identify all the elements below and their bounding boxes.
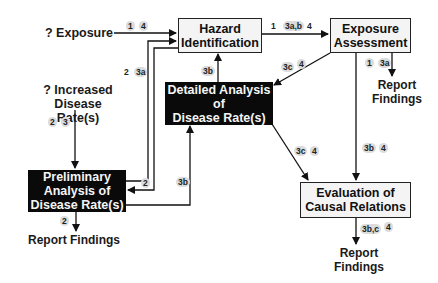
step-tag: 3 — [61, 117, 70, 127]
preliminary-analysis-box: Preliminary Analysis of Disease Rate(s) — [28, 170, 126, 212]
step-tag: 3b — [176, 177, 190, 187]
evaluation-report-findings-label: Report Findings — [324, 246, 394, 274]
exposure-assessment-box: Exposure Assessment — [330, 18, 411, 53]
increased-disease-input-label: ? Increased Disease Rate(s) — [18, 83, 138, 125]
hazard-identification-box: Hazard Identification — [178, 18, 262, 53]
step-tag: 2 — [60, 216, 69, 226]
step-tag: 2 — [141, 178, 150, 188]
exposure-input-label: ? Exposure — [45, 26, 115, 40]
step-tag: 4 — [379, 143, 388, 153]
step-tag: 4 — [139, 21, 148, 31]
step-tag: 2 — [48, 117, 57, 127]
step-tag: 4 — [305, 21, 314, 31]
exposure-report-findings-label: Report Findings — [362, 78, 432, 106]
detailed-analysis-box: Detailed Analysis of Disease Rate(s) — [165, 82, 273, 125]
step-tag: 1 — [365, 58, 374, 68]
preliminary-report-findings-label: Report Findings — [28, 233, 128, 247]
step-tag: 3b,c — [360, 224, 381, 234]
step-tag: 2 — [122, 67, 131, 77]
evaluation-causal-relations-box: Evaluation of Causal Relations — [300, 182, 411, 218]
step-tag: 4 — [297, 59, 306, 69]
step-tag: 4 — [384, 222, 393, 232]
step-tag: 3b — [362, 143, 376, 153]
step-tag: 3c — [281, 62, 294, 72]
step-tag: 3b — [201, 66, 215, 76]
step-tag: 3a — [134, 67, 147, 77]
step-tag: 3a,b — [283, 21, 304, 31]
step-tag: 4 — [310, 146, 319, 156]
step-tag: 1 — [126, 21, 135, 31]
step-tag: 1 — [269, 21, 278, 31]
step-tag: 3c — [294, 146, 307, 156]
step-tag: 3a — [378, 58, 391, 68]
